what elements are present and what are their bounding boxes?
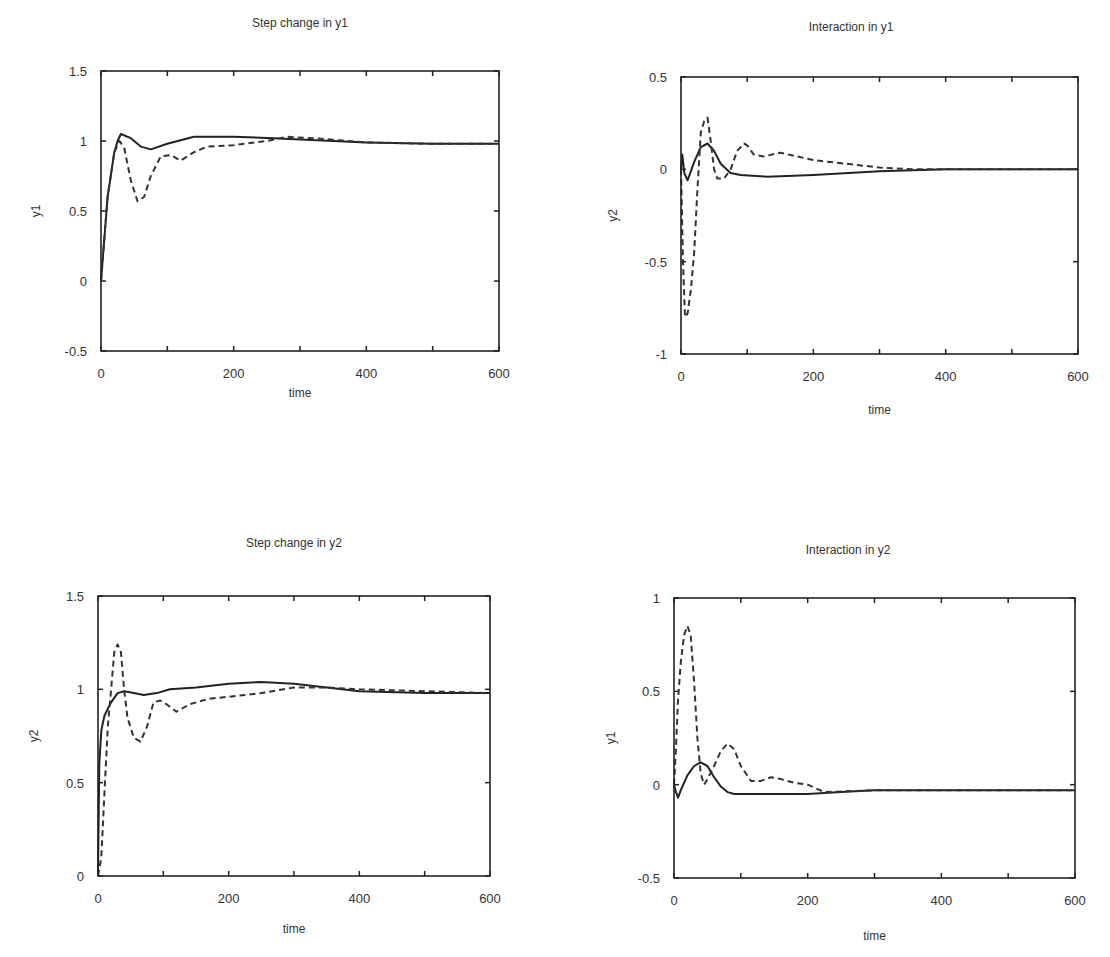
x-tick-label: 400: [348, 891, 370, 906]
chart-step-change-y1: Step change in y1 time y1 0200400600-0.5…: [0, 0, 555, 420]
series-solid-line: [98, 682, 490, 876]
x-tick-label: 200: [223, 366, 245, 381]
y-axis-label: y1: [604, 731, 618, 744]
plot-frame: [674, 598, 1075, 878]
y-axis-label: y2: [27, 729, 41, 742]
series-solid-line: [681, 144, 1078, 181]
chart-title: Interaction in y2: [806, 543, 891, 557]
y-tick-label: 0: [660, 162, 667, 177]
y-tick-label: 1.5: [69, 64, 87, 79]
y-tick-label: 0: [80, 274, 87, 289]
x-tick-label: 0: [677, 369, 684, 384]
y-tick-label: -0.5: [638, 871, 660, 886]
x-tick-label: 600: [488, 366, 510, 381]
x-tick-label: 400: [355, 366, 377, 381]
y-tick-label: 1: [653, 591, 660, 606]
chart-step-change-y2: Step change in y2 time y2 020040060000.5…: [0, 490, 555, 957]
x-tick-label: 0: [94, 891, 101, 906]
series-dashed-line: [101, 137, 499, 281]
x-tick-label: 200: [802, 369, 824, 384]
series-dashed-line: [98, 645, 490, 877]
y-tick-label: -1: [655, 347, 667, 362]
chart-title: Step change in y1: [252, 16, 348, 30]
series-solid-line: [101, 134, 499, 281]
series-dashed-line: [681, 118, 1078, 318]
x-axis-label: time: [868, 403, 891, 417]
y-tick-label: -0.5: [645, 255, 667, 270]
y-tick-label: -0.5: [65, 344, 87, 359]
x-tick-label: 600: [1064, 893, 1086, 908]
x-tick-label: 200: [218, 891, 240, 906]
y-tick-label: 0.5: [66, 776, 84, 791]
x-tick-label: 600: [479, 891, 501, 906]
x-tick-label: 0: [97, 366, 104, 381]
x-axis-label: time: [283, 922, 306, 936]
x-tick-label: 0: [670, 893, 677, 908]
y-tick-label: 0.5: [642, 684, 660, 699]
y-tick-label: 0.5: [69, 204, 87, 219]
y-tick-label: 0: [77, 869, 84, 884]
series-solid-line: [674, 762, 1075, 797]
x-tick-label: 600: [1067, 369, 1089, 384]
y-axis-label: y2: [606, 209, 620, 222]
x-tick-label: 400: [935, 369, 957, 384]
y-tick-label: 0: [653, 778, 660, 793]
y-tick-label: 1: [77, 682, 84, 697]
y-axis-label: y1: [29, 204, 43, 217]
x-tick-label: 200: [797, 893, 819, 908]
chart-title: Step change in y2: [246, 536, 342, 550]
chart-interaction-y1: Interaction in y1 time y2 0200400600-1-0…: [555, 0, 1110, 430]
y-tick-label: 1.5: [66, 589, 84, 604]
plot-frame: [98, 596, 490, 876]
chart-title: Interaction in y1: [809, 20, 894, 34]
chart-interaction-y2: Interaction in y2 time y1 0200400600-0.5…: [555, 500, 1110, 957]
x-axis-label: time: [289, 386, 312, 400]
plot-frame: [101, 71, 499, 351]
y-tick-label: 0.5: [649, 70, 667, 85]
x-tick-label: 400: [930, 893, 952, 908]
series-dashed-line: [674, 626, 1075, 792]
plot-frame: [681, 77, 1078, 354]
y-tick-label: 1: [80, 134, 87, 149]
x-axis-label: time: [863, 929, 886, 943]
